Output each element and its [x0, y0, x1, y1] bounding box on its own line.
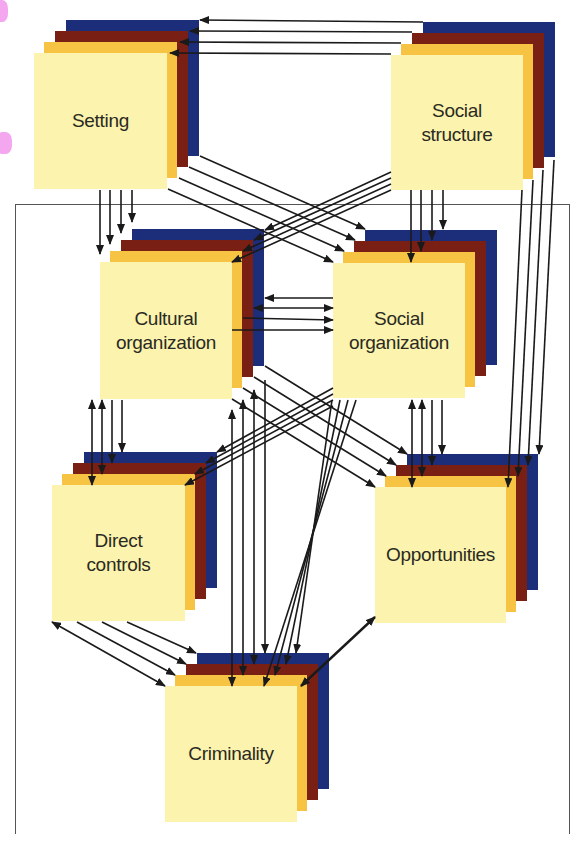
edge-cultural-socialorg: [232, 298, 333, 330]
edge-socialorg-criminality: [264, 400, 356, 686]
edge-socialorg-opportunities: [412, 400, 442, 487]
edge-directcontrols-criminality: [52, 622, 196, 686]
edge-socialstructure-cultural: [232, 172, 391, 262]
edge-opportunities-criminality: [301, 617, 375, 686]
edge-socialstructure-opportunities: [508, 160, 554, 487]
edge-cultural-opportunities: [232, 366, 407, 487]
edge-cultural-directcontrols: [92, 400, 122, 485]
edge-socialstructure-setting: [170, 20, 423, 54]
edge-cultural-criminality: [232, 380, 265, 686]
edge-socialstructure-socialorg: [411, 190, 443, 262]
edge-socialorg-directcontrols: [185, 388, 333, 485]
arrow-layer: [0, 0, 578, 849]
edge-setting-cultural: [100, 190, 132, 254]
